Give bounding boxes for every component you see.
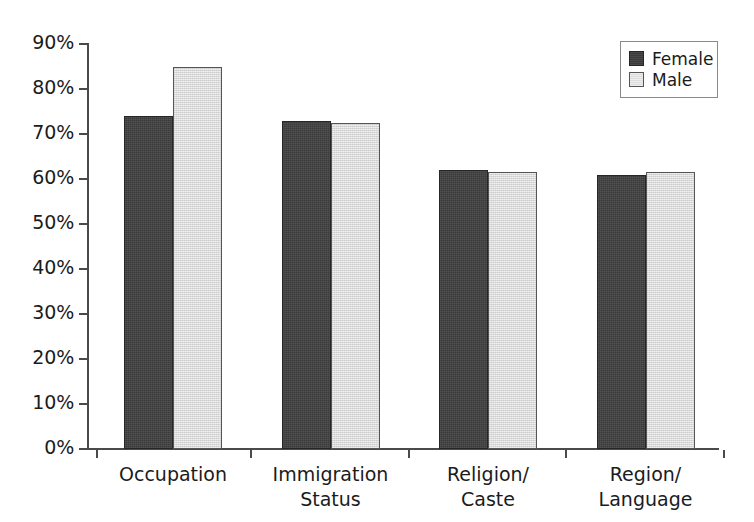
x-category-label-line2: Language bbox=[566, 487, 726, 512]
bar-female-1 bbox=[282, 121, 331, 450]
x-category-label-1: ImmigrationStatus bbox=[251, 462, 411, 512]
y-tick-mark bbox=[79, 448, 88, 450]
legend-label-male: Male bbox=[652, 70, 692, 90]
bar-male-3 bbox=[646, 172, 695, 449]
y-tick-label: 40% bbox=[0, 256, 74, 278]
x-tick-mark bbox=[250, 450, 252, 458]
bar-male-2 bbox=[488, 172, 537, 449]
legend: Female Male bbox=[620, 41, 718, 98]
female-swatch-icon bbox=[629, 51, 644, 66]
y-tick-label: 60% bbox=[0, 166, 74, 188]
bar-male-1 bbox=[331, 123, 380, 449]
y-tick-mark bbox=[79, 88, 88, 90]
x-category-label-line2: Status bbox=[251, 487, 411, 512]
y-tick-mark bbox=[79, 313, 88, 315]
x-category-label-3: Region/Language bbox=[566, 462, 726, 512]
x-category-label-2: Religion/Caste bbox=[408, 462, 568, 512]
y-tick-mark bbox=[79, 268, 88, 270]
y-tick-label: 20% bbox=[0, 346, 74, 368]
bar-male-0 bbox=[173, 67, 222, 450]
x-category-label-line2: Caste bbox=[408, 487, 568, 512]
y-tick-label: 30% bbox=[0, 301, 74, 323]
legend-entry-female: Female bbox=[629, 48, 710, 69]
y-tick-mark bbox=[79, 133, 88, 135]
y-tick-mark bbox=[79, 43, 88, 45]
y-tick-mark bbox=[79, 178, 88, 180]
y-tick-mark bbox=[79, 223, 88, 225]
x-tick-mark bbox=[723, 450, 725, 458]
legend-label-female: Female bbox=[652, 49, 713, 69]
x-tick-mark bbox=[408, 450, 410, 458]
y-tick-label: 80% bbox=[0, 76, 74, 98]
plot-area bbox=[88, 44, 718, 449]
x-tick-mark bbox=[96, 450, 98, 458]
x-category-label-line1: Immigration bbox=[251, 462, 411, 487]
bar-female-2 bbox=[439, 170, 488, 449]
y-tick-label: 50% bbox=[0, 211, 74, 233]
x-category-label-line1: Occupation bbox=[93, 462, 253, 487]
x-category-label-0: Occupation bbox=[93, 462, 253, 487]
x-tick-mark bbox=[565, 450, 567, 458]
x-category-label-line1: Religion/ bbox=[408, 462, 568, 487]
y-tick-label: 90% bbox=[0, 31, 74, 53]
y-tick-label: 0% bbox=[0, 436, 74, 458]
legend-entry-male: Male bbox=[629, 69, 710, 90]
y-tick-label: 10% bbox=[0, 391, 74, 413]
bar-chart: 90%80%70%60%50%40%30%20%10%0% Occupation… bbox=[0, 0, 754, 522]
bar-female-3 bbox=[597, 175, 646, 450]
y-tick-mark bbox=[79, 403, 88, 405]
male-swatch-icon bbox=[629, 72, 644, 87]
y-tick-mark bbox=[79, 358, 88, 360]
bar-female-0 bbox=[124, 116, 173, 449]
x-category-label-line1: Region/ bbox=[566, 462, 726, 487]
y-tick-label: 70% bbox=[0, 121, 74, 143]
